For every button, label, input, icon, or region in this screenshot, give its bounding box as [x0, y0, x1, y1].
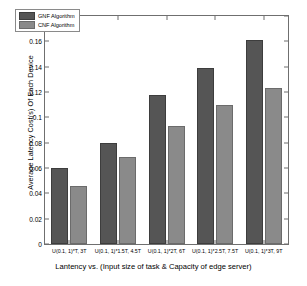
y-tick-mark: [45, 244, 49, 245]
y-tick-mark: [45, 193, 49, 194]
y-tick-mark: [284, 193, 288, 194]
y-tick-label: 0.12: [29, 89, 42, 96]
bar-gnf: [149, 95, 166, 244]
bar-chart-figure: Average Latency Cost(s) Of Each Device 0…: [0, 0, 307, 286]
y-tick-label: 0.06: [29, 165, 42, 172]
y-tick-mark: [45, 92, 49, 93]
x-tick-label: U(0.1, 1)*2T, 6T: [148, 248, 185, 254]
y-tick-mark: [284, 41, 288, 42]
y-tick-label: 0.14: [29, 63, 42, 70]
bar-cnf: [216, 105, 233, 244]
plot-area: 00.020.040.060.080.10.120.140.160.18U(0.…: [44, 15, 289, 245]
y-tick-label: 0.02: [29, 215, 42, 222]
y-tick-mark: [284, 244, 288, 245]
y-tick-label: 0: [38, 241, 42, 248]
y-tick-mark: [45, 168, 49, 169]
y-tick-label: 0.08: [29, 139, 42, 146]
legend-swatch-gnf: [19, 12, 35, 20]
y-tick-mark: [45, 142, 49, 143]
x-tick-label: U(0.1, 1)*2.5T, 7.5T: [192, 248, 238, 254]
y-tick-mark: [284, 92, 288, 93]
x-tick-label: U(0.1, 1)*1.5T, 4.5T: [95, 248, 141, 254]
legend-item-gnf: GNF Algorithm: [19, 12, 75, 20]
y-tick-mark: [45, 218, 49, 219]
x-tick-label: U(0.1, 1)*3T, 9T: [245, 248, 282, 254]
chart-legend: GNF Algorithm CNF Algorithm: [15, 9, 80, 32]
bar-cnf: [265, 88, 282, 244]
bar-gnf: [246, 40, 263, 244]
bar-gnf: [51, 168, 68, 244]
y-tick-mark: [284, 66, 288, 67]
y-tick-label: 0.16: [29, 38, 42, 45]
y-tick-mark: [284, 218, 288, 219]
x-tick-mark: [215, 16, 216, 20]
y-tick-label: 0.1: [33, 114, 42, 121]
y-tick-mark: [45, 117, 49, 118]
legend-label-gnf: GNF Algorithm: [38, 13, 75, 19]
bar-cnf: [168, 126, 185, 244]
y-tick-mark: [45, 66, 49, 67]
x-tick-mark: [166, 16, 167, 20]
y-tick-mark: [284, 142, 288, 143]
x-tick-label: U(0.1, 1)*T, 3T: [52, 248, 86, 254]
y-tick-mark: [284, 117, 288, 118]
y-tick-mark: [45, 41, 49, 42]
bar-gnf: [197, 68, 214, 244]
legend-item-cnf: CNF Algorithm: [19, 21, 75, 29]
x-tick-mark: [263, 16, 264, 20]
legend-label-cnf: CNF Algorithm: [38, 22, 74, 28]
y-tick-label: 0.04: [29, 190, 42, 197]
bar-gnf: [100, 143, 117, 244]
legend-swatch-cnf: [19, 21, 35, 29]
y-tick-mark: [284, 16, 288, 17]
bar-cnf: [70, 186, 87, 244]
y-tick-mark: [284, 168, 288, 169]
x-tick-mark: [117, 16, 118, 20]
x-axis-title: Lantency vs. (Input size of task & Capac…: [0, 262, 307, 271]
bar-cnf: [119, 157, 136, 244]
